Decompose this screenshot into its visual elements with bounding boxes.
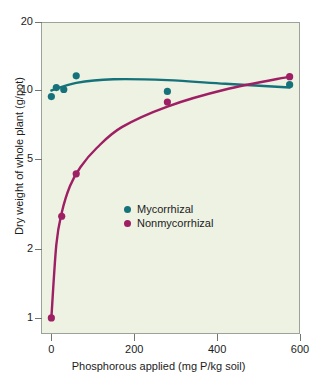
legend-item-mycorrhizal: Mycorrhizal	[124, 203, 213, 216]
legend-label-mycorrhizal: Mycorrhizal	[137, 203, 193, 216]
x-tick-mark	[134, 334, 135, 341]
x-axis-title: Phosphorous applied (mg P/kg soil)	[0, 360, 317, 372]
legend-marker-mycorrhizal	[124, 206, 131, 213]
x-tick-label: 400	[197, 343, 237, 355]
legend-marker-nonmycorrhizal	[124, 220, 131, 227]
y-tick-mark	[35, 22, 42, 23]
x-tick-mark	[300, 334, 301, 341]
x-tick-mark	[51, 334, 52, 341]
legend-label-nonmycorrhizal: Nonmycorrhizal	[137, 217, 213, 230]
y-tick-label: 20	[0, 15, 33, 27]
y-tick-mark	[35, 90, 42, 91]
y-tick-label: 1	[0, 311, 33, 323]
y-tick-mark	[35, 159, 42, 160]
legend-item-nonmycorrhizal: Nonmycorrhizal	[124, 217, 213, 230]
y-tick-mark	[35, 249, 42, 250]
x-tick-mark	[217, 334, 218, 341]
plot-area	[41, 22, 300, 334]
chart-figure: 12510200200400600 Dry weight of whole pl…	[0, 0, 317, 384]
y-axis-title: Dry weight of whole plant (g/pot)	[13, 41, 25, 271]
x-tick-label: 0	[31, 343, 71, 355]
chart-legend: Mycorrhizal Nonmycorrhizal	[124, 203, 213, 231]
x-tick-label: 600	[280, 343, 317, 355]
y-tick-mark	[35, 318, 42, 319]
x-tick-label: 200	[114, 343, 154, 355]
